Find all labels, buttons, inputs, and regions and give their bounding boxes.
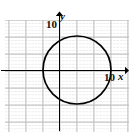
- graph-figure: y 10 10 x: [0, 0, 129, 135]
- x-axis-label: x: [118, 71, 124, 82]
- x-axis-tick-label-10: 10: [104, 72, 115, 83]
- y-axis-label: y: [60, 11, 65, 22]
- y-axis-tick-label-10: 10: [46, 19, 57, 30]
